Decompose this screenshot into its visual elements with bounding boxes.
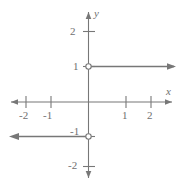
branch-right-ray [86,63,176,70]
x-tick-label-2: 2 [147,110,153,121]
open-circle-0-1 [86,64,91,69]
x-tick-label-1: 1 [122,110,128,121]
open-circle-0--1 [86,134,91,139]
branch-right-arrowhead [167,63,176,70]
y-tick-label-2: 2 [70,26,76,37]
x-axis-arrow-left [11,99,18,105]
branch-left-arrowhead [9,133,19,140]
y-axis-arrow-down [86,171,92,178]
y-axis-arrow-up [86,12,92,19]
y-axis-label: y [94,8,99,19]
y-tick-label--1: -1 [70,126,79,137]
y-tick-label--2: -2 [68,160,77,171]
x-tick-label--1: -1 [43,110,52,121]
y-axis [83,12,95,178]
coordinate-plane-figure: -2 -1 1 2 2 1 -1 -2 y x [0,0,183,185]
y-tick-label-1: 1 [73,61,79,72]
x-tick-label--2: -2 [19,110,28,121]
graph-canvas [0,0,183,185]
x-axis-arrow-right [165,99,172,105]
x-axis [11,96,172,108]
x-axis-label: x [166,86,171,97]
